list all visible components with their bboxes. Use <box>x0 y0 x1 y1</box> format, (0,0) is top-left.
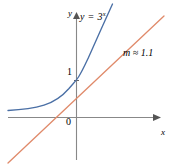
y-axis <box>73 12 80 160</box>
y-axis-arrowhead <box>73 12 80 19</box>
slope-annotation-label: m ≈ 1.1 <box>123 48 153 58</box>
x-axis <box>8 114 161 121</box>
tangent-line <box>8 16 164 163</box>
plot-area <box>0 0 173 165</box>
curve-equation-exponent: x <box>103 10 106 17</box>
exponential-tangent-figure: y x 1 0 y = 3x m ≈ 1.1 <box>0 0 173 165</box>
y-axis-label: y <box>68 9 72 18</box>
curve-equation-base: y = 3 <box>80 11 103 22</box>
origin-label: 0 <box>66 117 71 127</box>
y-tick-label-one: 1 <box>67 67 72 77</box>
x-axis-label: x <box>161 128 165 137</box>
x-axis-arrowhead <box>153 114 161 121</box>
curve-equation-label: y = 3x <box>80 12 106 22</box>
